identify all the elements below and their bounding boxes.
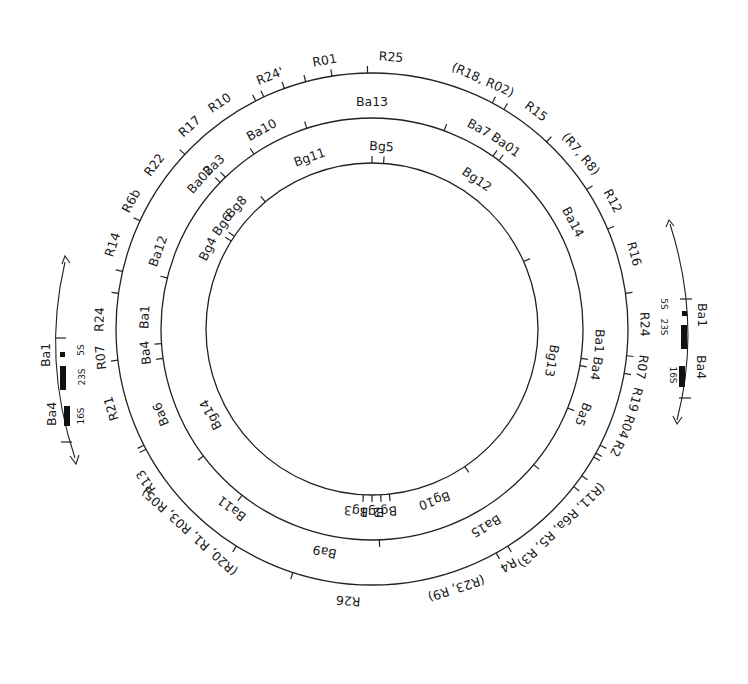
fragment-label: R6b	[119, 186, 144, 215]
inset-arc	[670, 224, 688, 420]
inset-label-23s: 23S	[77, 368, 87, 385]
cut-site-tick	[596, 453, 602, 456]
cut-site-tick	[112, 292, 119, 293]
fragment-label: R10	[205, 90, 234, 116]
fragment-label: (R7, R8)	[559, 129, 603, 178]
cut-site-tick	[160, 276, 167, 278]
inset-label-ba4: Ba4	[44, 402, 59, 426]
fragment-label: R07	[92, 344, 109, 370]
fragment-label: Ba12	[145, 233, 170, 268]
fragment-label: Bg13	[542, 344, 562, 379]
cut-site-tick	[465, 467, 469, 473]
fragment-label: R15	[522, 98, 551, 125]
cut-site-tick	[608, 226, 614, 229]
gene-23s	[60, 366, 66, 390]
cut-site-tick	[282, 82, 284, 89]
fragment-label: Ba6	[149, 400, 172, 428]
fragment-label: Bg14	[196, 397, 224, 433]
fragment-label: Bg4	[195, 234, 219, 263]
cut-site-tick	[116, 270, 123, 272]
fragment-label: Bg5	[369, 138, 394, 154]
fragment-label: R17	[175, 112, 203, 140]
inset-label-ba4: Ba4	[694, 355, 709, 379]
fragment-label: Ba11	[214, 493, 249, 525]
fragment-label: Bg11	[292, 144, 328, 169]
cut-site-tick	[582, 476, 588, 480]
cut-site-tick	[134, 218, 140, 221]
ring-bglii	[206, 163, 538, 495]
fragment-label: R26	[335, 592, 361, 609]
cut-site-tick	[389, 494, 390, 501]
cut-site-tick	[624, 373, 631, 374]
rrna-inset-right: Ba1 Ba4 5S 23S 16S	[659, 220, 710, 424]
inset-label-16s: 16S	[76, 407, 86, 424]
arrow-up-icon	[62, 256, 70, 264]
fragment-label: Bg12	[459, 164, 494, 195]
cut-site-tick	[626, 292, 633, 293]
cut-site-tick	[238, 495, 242, 501]
cut-site-tick	[496, 553, 499, 559]
fragment-label: R14	[101, 231, 123, 259]
gene-16s	[64, 406, 70, 426]
ring-bamhi	[161, 118, 583, 540]
fragment-label: R22	[141, 150, 168, 179]
cut-site-tick	[580, 366, 587, 367]
fragment-label: Ba9	[311, 542, 338, 562]
fragment-label: R24	[91, 307, 107, 332]
fragment-label: Ba5	[572, 400, 595, 428]
cut-site-tick	[229, 232, 235, 236]
fragment-label: Bg3	[343, 503, 369, 520]
fragment-label: Ba4	[136, 340, 153, 366]
fragment-label: Ba15	[468, 512, 503, 541]
cut-site-tick	[574, 487, 580, 491]
cut-site-tick	[198, 456, 204, 460]
inset-label-ba1: Ba1	[695, 303, 710, 327]
fragment-label: R25	[378, 48, 404, 65]
cut-site-tick	[140, 449, 146, 452]
cut-site-tick	[156, 358, 163, 359]
cut-site-tick	[508, 546, 512, 552]
fragment-label: R12	[601, 186, 626, 215]
gene-23s	[681, 325, 687, 349]
cut-site-tick	[111, 360, 118, 361]
cut-site-tick	[305, 122, 307, 129]
map-labels: R25(R18, R02)R15(R7, R8)R12R16R24R07R19R…	[91, 48, 652, 609]
restriction-map-diagram: R25(R18, R02)R15(R7, R8)R12R16R24R07R19R…	[0, 0, 748, 684]
cut-site-tick	[493, 150, 497, 156]
inset-label-5s: 5S	[659, 298, 669, 310]
cut-site-tick	[261, 91, 264, 97]
cut-site-tick	[444, 124, 446, 131]
fragment-label: Bg10	[417, 488, 453, 513]
fragment-label: R07	[633, 354, 651, 380]
cut-site-tick	[504, 104, 508, 110]
cut-site-tick	[304, 75, 306, 82]
gene-5s	[60, 352, 65, 357]
inset-arc	[56, 262, 75, 458]
cut-site-tick	[291, 572, 293, 579]
fragment-label: R04	[615, 413, 638, 441]
gene-16s	[679, 366, 685, 387]
cut-site-tick	[587, 186, 593, 190]
cut-site-tick	[253, 95, 256, 101]
arrow-up-icon	[666, 220, 674, 227]
cut-site-tick	[499, 155, 503, 161]
cut-site-tick	[221, 172, 226, 177]
cut-site-tick	[568, 408, 574, 411]
cut-site-tick	[524, 259, 530, 262]
cut-site-tick	[547, 137, 552, 142]
cut-site-tick	[627, 356, 634, 357]
gene-5s	[682, 311, 687, 316]
rrna-inset-left: Ba1 Ba4 5S 23S 16S	[38, 256, 87, 464]
fragment-label: Ba10	[244, 115, 279, 144]
fragment-label: Ba1	[592, 328, 608, 353]
cut-site-tick	[215, 178, 220, 183]
fragment-label: R21	[100, 395, 122, 423]
fragment-label: (R18, R02)	[449, 59, 516, 100]
fragment-label: Ba14	[559, 204, 587, 239]
cut-site-tick	[225, 237, 231, 241]
inset-label-23s: 23S	[659, 318, 669, 335]
fragment-label: R4	[498, 555, 520, 576]
cut-site-tick	[250, 148, 254, 154]
cut-site-tick	[331, 69, 332, 76]
fragment-label: R24	[637, 312, 652, 337]
